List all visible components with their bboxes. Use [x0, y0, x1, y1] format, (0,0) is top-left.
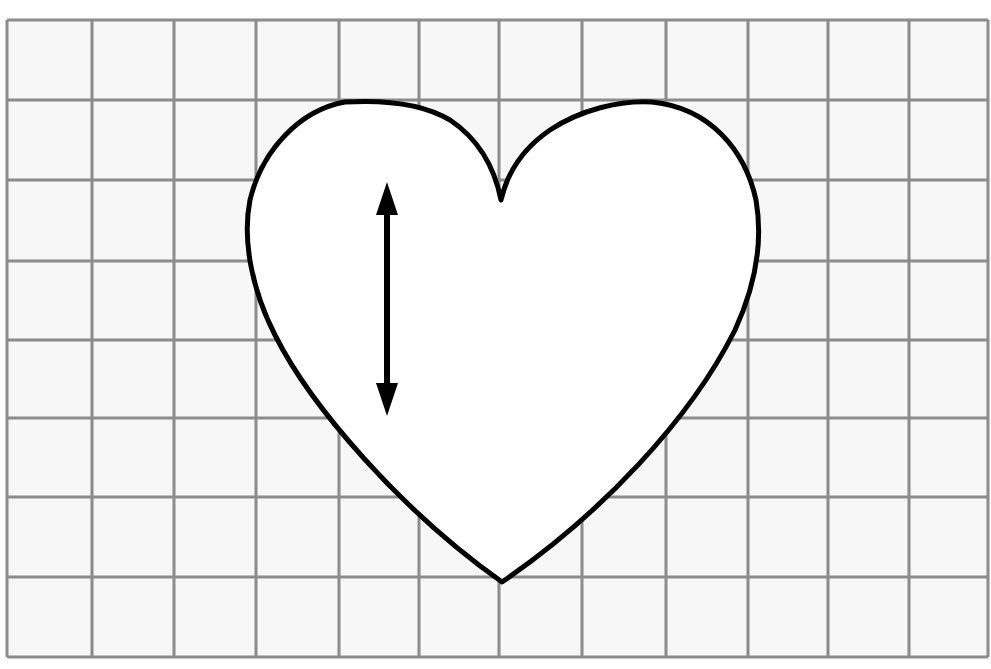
grid-heart-diagram — [0, 0, 991, 669]
